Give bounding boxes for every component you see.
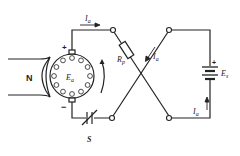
- current-arrow-right-icon: [205, 97, 209, 110]
- label-current-right: Ia: [192, 107, 199, 117]
- battery-es: [200, 66, 220, 80]
- label-brush-minus: −: [61, 102, 66, 112]
- rotation-arrowhead: [100, 59, 105, 64]
- label-current-top: Ia: [84, 14, 91, 24]
- terminal-top-right: [167, 28, 172, 33]
- terminal-bottom-left: [110, 116, 115, 121]
- label-brush-plus: +: [62, 43, 67, 52]
- wire-bottom-right: [172, 80, 211, 118]
- wire-top-left: [72, 30, 111, 50]
- wire-top-right: [172, 30, 211, 66]
- rotation-arrow-icon: [101, 62, 104, 93]
- circuit-diagram: N Ea Rp Es S Ia Ia Ia + − +: [0, 0, 240, 156]
- label-battery-es: Es: [220, 69, 229, 79]
- terminal-bottom-right: [167, 116, 172, 121]
- label-switch-s: S: [87, 135, 92, 144]
- brush-bottom: [69, 98, 75, 102]
- label-armature-emf: Ea: [65, 73, 74, 83]
- label-current-cross: Ia: [152, 52, 159, 62]
- armature-slots: [52, 56, 93, 97]
- brush-top: [69, 50, 75, 54]
- label-n: N: [26, 73, 33, 83]
- terminal-top-left: [111, 28, 116, 33]
- label-resistor-rp: Rp: [116, 55, 125, 65]
- label-battery-plus: +: [212, 59, 216, 66]
